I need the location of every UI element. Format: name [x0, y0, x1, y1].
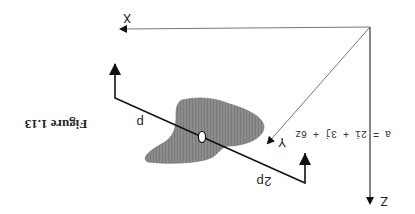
- x-axis-label: X: [123, 10, 131, 25]
- rigid-body-shape: [145, 98, 264, 163]
- figure-diagram: X Y Z a = 2i + 3j + 6z p 2p Figure 1.13: [0, 0, 415, 214]
- z-axis-label: Z: [380, 193, 388, 208]
- intersection-point: [198, 132, 205, 143]
- label-p: p: [136, 114, 144, 129]
- figure-caption: Figure 1.13: [24, 117, 87, 132]
- y-axis: [268, 27, 370, 143]
- x-axis: [121, 27, 370, 29]
- y-axis-label: Y: [278, 134, 286, 149]
- label-2p: 2p: [256, 173, 272, 188]
- vector-equation: a = 2i + 3j + 6z: [295, 128, 391, 139]
